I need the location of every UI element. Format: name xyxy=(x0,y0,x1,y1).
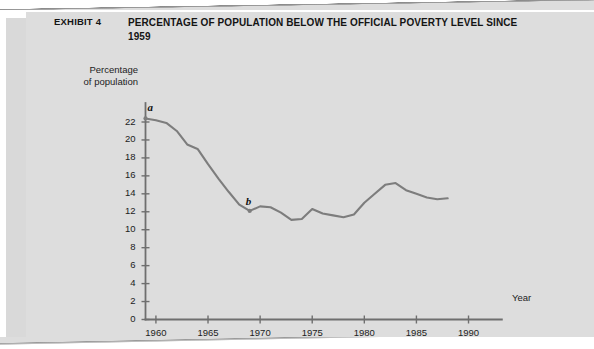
bottom-edge-rule xyxy=(0,337,594,349)
y-axis-tick-label: 12 xyxy=(112,205,136,216)
x-axis-tick-label: 1970 xyxy=(243,327,277,338)
exhibit-page: EXHIBIT 4PERCENTAGE OF POPULATION BELOW … xyxy=(0,0,594,349)
y-axis-title: Percentage of population xyxy=(58,64,138,87)
y-axis-tick-label: 10 xyxy=(112,223,136,234)
x-axis-tick-label: 1990 xyxy=(452,327,486,338)
y-axis-tick-label: 4 xyxy=(112,277,136,288)
y-axis-tick-label: 20 xyxy=(112,133,136,144)
x-axis-tick-label: 1960 xyxy=(139,327,173,338)
y-axis-tick-label: 6 xyxy=(112,259,136,270)
page-title: PERCENTAGE OF POPULATION BELOW THE OFFIC… xyxy=(128,16,518,43)
x-axis-tick-label: 1985 xyxy=(399,327,433,338)
y-axis-tick-label: 18 xyxy=(112,151,136,162)
y-axis-tick-label: 22 xyxy=(112,116,136,127)
x-axis-tick-label: 1980 xyxy=(347,327,381,338)
y-axis-tick-label: 8 xyxy=(112,241,136,252)
x-axis-tick-label: 1975 xyxy=(295,327,329,338)
annotation-label-a: a xyxy=(148,101,154,113)
x-axis-title: Year xyxy=(512,292,552,304)
exhibit-title-block: EXHIBIT 4PERCENTAGE OF POPULATION BELOW … xyxy=(54,16,534,43)
y-axis-tick-label: 16 xyxy=(112,169,136,180)
y-axis-tick-label: 2 xyxy=(112,295,136,306)
y-axis-tick-label: 14 xyxy=(112,187,136,198)
exhibit-number-label: EXHIBIT 4 xyxy=(54,16,128,27)
top-edge-rule xyxy=(0,0,594,10)
y-axis-tick-label: 0 xyxy=(112,313,136,324)
x-axis-tick-label: 1965 xyxy=(191,327,225,338)
annotation-label-b: b xyxy=(246,195,252,207)
